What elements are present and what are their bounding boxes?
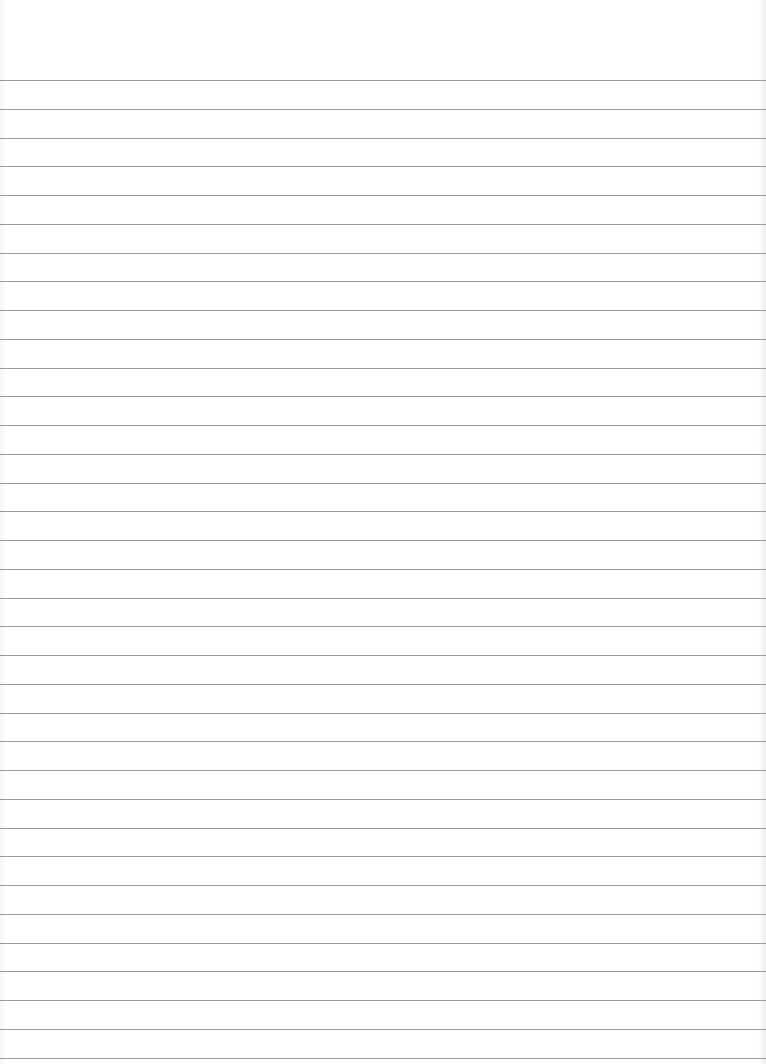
ruled-line: [0, 770, 766, 771]
ruled-line: [0, 828, 766, 829]
ruled-line: [0, 310, 766, 311]
ruled-line: [0, 741, 766, 742]
ruled-line: [0, 454, 766, 455]
ruled-line: [0, 80, 766, 81]
ruled-line: [0, 856, 766, 857]
ruled-line: [0, 368, 766, 369]
ruled-line: [0, 396, 766, 397]
ruled-line: [0, 483, 766, 484]
ruled-line: [0, 166, 766, 167]
ruled-line: [0, 713, 766, 714]
ruled-line: [0, 281, 766, 282]
ruled-line: [0, 138, 766, 139]
ruled-line: [0, 914, 766, 915]
ruled-line: [0, 1058, 766, 1059]
ruled-line: [0, 425, 766, 426]
ruled-line: [0, 943, 766, 944]
ruled-line: [0, 1000, 766, 1001]
ruled-line: [0, 511, 766, 512]
ruled-line: [0, 655, 766, 656]
ruled-line: [0, 598, 766, 599]
ruled-line: [0, 971, 766, 972]
ruled-line: [0, 684, 766, 685]
ruled-line: [0, 569, 766, 570]
ruled-line: [0, 540, 766, 541]
ruled-line: [0, 224, 766, 225]
ruled-line: [0, 1029, 766, 1030]
ruled-line: [0, 339, 766, 340]
ruled-line: [0, 109, 766, 110]
ruled-line: [0, 626, 766, 627]
ruled-line: [0, 885, 766, 886]
ruled-paper-sheet: [0, 0, 766, 1064]
ruled-line: [0, 253, 766, 254]
ruled-line: [0, 799, 766, 800]
ruled-line: [0, 195, 766, 196]
